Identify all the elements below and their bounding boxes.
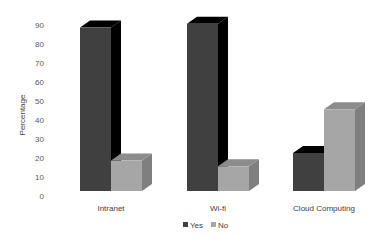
x-category-label: Cloud Computing: [293, 204, 355, 213]
y-axis-label: Percentage: [18, 94, 27, 135]
y-tick-label: 90: [35, 21, 44, 30]
legend-label: No: [218, 221, 229, 230]
y-tick-label: 0: [40, 192, 45, 201]
y-tick-label: 20: [35, 154, 44, 163]
y-tick-label: 80: [35, 40, 44, 49]
legend-item-yes: Yes: [183, 221, 203, 230]
y-tick-label: 60: [35, 78, 44, 87]
legend-item-no: No: [211, 221, 229, 230]
y-tick-label: 10: [35, 173, 44, 182]
y-tick-label: 30: [35, 135, 44, 144]
legend-swatch: [211, 222, 216, 227]
bars: [80, 17, 365, 191]
legend: YesNo: [183, 221, 229, 230]
y-tick-label: 40: [35, 116, 44, 125]
bar-no-2: [324, 102, 365, 191]
x-category-label: Wi-fi: [210, 204, 226, 213]
bar-chart: 0102030405060708090 Percentage IntranetW…: [0, 0, 389, 238]
bar-no-1: [218, 159, 259, 191]
x-axis-categories: IntranetWi-fiCloud Computing: [97, 204, 354, 213]
legend-label: Yes: [190, 221, 203, 230]
y-tick-label: 70: [35, 59, 44, 68]
y-axis-ticks: 0102030405060708090: [35, 21, 44, 201]
legend-swatch: [183, 222, 188, 227]
x-category-label: Intranet: [97, 204, 125, 213]
y-tick-label: 50: [35, 97, 44, 106]
bar-no-0: [111, 154, 152, 191]
